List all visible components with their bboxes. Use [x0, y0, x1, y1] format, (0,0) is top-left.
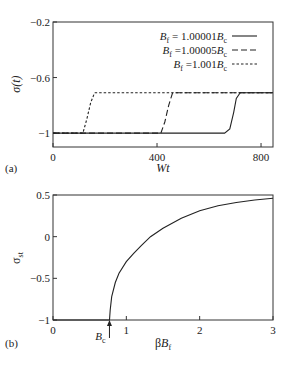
series-line	[53, 93, 273, 133]
plot-a-xlabel: Wt	[156, 161, 170, 175]
y-tick-label: −0.5	[30, 272, 50, 284]
plot-a-series	[53, 93, 273, 133]
bc-label: Bc	[95, 330, 106, 345]
y-tick-label: 0.5	[36, 189, 50, 201]
y-tick-label: −0.2	[30, 16, 50, 28]
legend-label: Bf =1.001Bc	[174, 58, 228, 73]
plot-b-ticks: 0123−1−0.500.5	[30, 189, 276, 336]
plot-b-xlabel: βBf	[155, 336, 171, 352]
plot-a-ylabel: σ(t)	[9, 75, 23, 92]
plot-b-series	[53, 198, 273, 320]
panel-a: 0400800−1−0.6−0.2 Bf = 1.00001BcBf =1.00…	[5, 16, 273, 175]
y-tick-label: −1	[38, 314, 50, 326]
legend-label: Bf =1.00005Bc	[163, 44, 228, 59]
series-line	[53, 93, 273, 133]
x-tick-label: 0	[50, 324, 56, 336]
y-tick-label: 0	[45, 231, 51, 243]
panel-b-label: (b)	[5, 337, 18, 350]
arrow-up-icon	[107, 320, 112, 326]
x-tick-label: 3	[270, 324, 276, 336]
figure: 0400800−1−0.6−0.2 Bf = 1.00001BcBf =1.00…	[0, 0, 292, 369]
series-line	[53, 198, 273, 320]
x-tick-label: 1	[124, 324, 130, 336]
series-line	[53, 93, 273, 133]
y-tick-label: −1	[38, 127, 50, 139]
panel-b: 0123−1−0.500.5 Bc βBf σst (b)	[5, 189, 276, 352]
x-tick-label: 2	[197, 324, 203, 336]
y-tick-label: −0.6	[30, 72, 50, 84]
x-tick-label: 800	[253, 151, 270, 163]
x-tick-label: 0	[50, 151, 56, 163]
plot-a-legend: Bf = 1.00001BcBf =1.00005BcBf =1.001Bc	[160, 30, 257, 73]
plot-a-ticks: 0400800−1−0.6−0.2	[30, 16, 270, 163]
panel-a-label: (a)	[5, 162, 18, 175]
bc-annotation: Bc	[95, 320, 112, 345]
legend-label: Bf = 1.00001Bc	[160, 30, 228, 45]
plot-b-ylabel: σst	[9, 251, 25, 264]
plot-b-frame	[53, 195, 273, 320]
